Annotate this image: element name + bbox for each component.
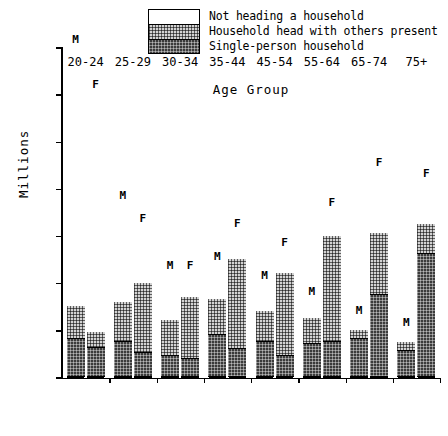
stacked-bar xyxy=(134,227,152,378)
bar-segment xyxy=(256,342,274,377)
bar-segment xyxy=(161,320,179,355)
bar-segment xyxy=(208,264,226,299)
x-axis-tick xyxy=(346,378,347,383)
x-axis-tick xyxy=(298,378,299,383)
bar-segment xyxy=(417,224,435,255)
stacked-bar xyxy=(323,211,341,378)
bar-segment xyxy=(87,348,105,377)
bar-group-label: F xyxy=(364,157,394,168)
stacked-bar xyxy=(67,48,85,378)
bar-segment xyxy=(208,335,226,377)
bar-segment xyxy=(87,332,105,348)
x-axis-tick xyxy=(157,378,158,383)
legend-label-not-heading: Not heading a household xyxy=(209,9,364,24)
bar-segment xyxy=(323,210,341,236)
bar-segment xyxy=(397,342,415,351)
stacked-bar xyxy=(161,274,179,378)
y-axis-tick xyxy=(56,189,62,190)
stacked-bar xyxy=(370,171,388,378)
bar-segment xyxy=(370,170,388,234)
y-axis-tick xyxy=(56,377,62,378)
bar-segment xyxy=(303,318,321,344)
x-axis-tick xyxy=(204,378,205,383)
bar-group-label: F xyxy=(128,213,158,224)
y-axis-tick xyxy=(56,142,62,143)
bar-segment xyxy=(67,306,85,339)
bar-segment xyxy=(256,283,274,311)
bar-segment xyxy=(161,356,179,377)
x-axis-title: Age Group xyxy=(62,82,440,97)
bar-segment xyxy=(134,283,152,353)
bar-group-label: M xyxy=(61,34,91,45)
y-axis-tick xyxy=(56,283,62,284)
bar-segment xyxy=(134,353,152,378)
bar-segment xyxy=(161,273,179,320)
bar-group-label: F xyxy=(411,168,441,179)
bar-segment xyxy=(303,344,321,377)
bar-segment xyxy=(134,226,152,283)
legend-item-head-with-others: Household head with others present xyxy=(148,24,438,39)
bar-segment xyxy=(87,92,105,332)
bar-segment xyxy=(370,233,388,294)
bar-segment xyxy=(114,302,132,342)
stacked-bar xyxy=(350,319,368,378)
bar-segment xyxy=(181,359,199,377)
x-axis-tick xyxy=(440,378,441,383)
plot-area: Millions 01234567 MFMFMFMFMFMFMFMF 20-24… xyxy=(62,48,440,378)
stacked-bar xyxy=(276,251,294,378)
bar-segment xyxy=(276,356,294,377)
bar-segment xyxy=(276,273,294,356)
bar-segment xyxy=(256,311,274,342)
stacked-bar xyxy=(114,204,132,378)
legend-swatch-white-icon xyxy=(148,9,200,24)
bar-chart: Not heading a household Household head w… xyxy=(0,0,448,436)
bar-segment xyxy=(208,299,226,334)
bar-segment xyxy=(181,273,199,297)
stacked-bar xyxy=(87,93,105,378)
bar-segment xyxy=(114,342,132,377)
legend-swatch-stipple-icon xyxy=(148,24,200,39)
stacked-bar xyxy=(209,265,227,378)
stacked-bar xyxy=(229,232,247,378)
bar-segment xyxy=(350,339,368,377)
stacked-bar xyxy=(418,182,436,378)
x-axis-tick-label: 75+ xyxy=(376,56,448,68)
bar-segment xyxy=(323,236,341,342)
x-axis-tick xyxy=(393,378,394,383)
bar-segment xyxy=(397,330,415,342)
stacked-bar xyxy=(256,284,274,378)
bar-segment xyxy=(417,254,435,377)
legend-label-head-with-others: Household head with others present xyxy=(209,24,438,39)
bar-group-label: M xyxy=(108,190,138,201)
bar-group-label: F xyxy=(317,197,347,208)
bar-segment xyxy=(350,318,368,330)
bar-group-label: F xyxy=(270,237,300,248)
stacked-bar xyxy=(398,331,416,378)
y-axis-tick xyxy=(56,236,62,237)
bar-segment xyxy=(228,259,246,349)
y-axis-title: Millions xyxy=(16,130,31,198)
bar-segment xyxy=(417,181,435,223)
stacked-bar xyxy=(181,274,199,378)
bar-segment xyxy=(228,349,246,377)
x-axis-tick xyxy=(109,378,110,383)
x-axis-tick xyxy=(251,378,252,383)
bar-segment xyxy=(397,351,415,377)
bar-segment xyxy=(370,295,388,378)
y-axis-tick xyxy=(56,47,62,48)
stacked-bar xyxy=(303,300,321,378)
bar-segment xyxy=(350,330,368,339)
legend-item-not-heading: Not heading a household xyxy=(148,9,438,24)
y-axis-tick xyxy=(56,330,62,331)
bar-segment xyxy=(228,231,246,259)
bar-group-label: F xyxy=(222,218,252,229)
bar-segment xyxy=(276,250,294,274)
bar-segment xyxy=(323,342,341,377)
bar-segment xyxy=(303,299,321,318)
bar-segment xyxy=(67,339,85,377)
bar-segment xyxy=(181,297,199,359)
bar-group-label: F xyxy=(175,260,205,271)
